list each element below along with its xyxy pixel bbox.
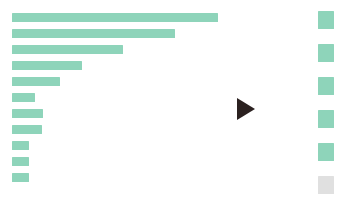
bar-fill [12, 45, 123, 54]
bar-fill [12, 13, 218, 22]
bar-row[interactable] [12, 61, 82, 70]
legend-swatch[interactable] [318, 11, 334, 29]
bar-row[interactable] [12, 125, 42, 134]
play-triangle-glyph [236, 97, 256, 121]
bar-row[interactable] [12, 157, 29, 166]
bar-chart [0, 0, 232, 201]
bar-fill [12, 77, 60, 86]
bar-fill [12, 109, 43, 118]
bar-fill [12, 93, 35, 102]
bar-row[interactable] [12, 141, 29, 150]
legend-swatch[interactable] [318, 143, 334, 161]
legend-swatch[interactable] [318, 44, 334, 62]
bar-row[interactable] [12, 77, 60, 86]
bar-fill [12, 29, 175, 38]
bar-row[interactable] [12, 29, 175, 38]
bar-fill [12, 157, 29, 166]
bar-row[interactable] [12, 45, 123, 54]
bar-row[interactable] [12, 13, 218, 22]
legend-swatch[interactable] [318, 176, 334, 194]
bar-row[interactable] [12, 93, 35, 102]
screen-root [0, 0, 339, 201]
bar-fill [12, 141, 29, 150]
bar-fill [12, 61, 82, 70]
play-triangle-icon[interactable] [236, 97, 256, 121]
legend-swatch[interactable] [318, 110, 334, 128]
legend-swatch-column [318, 0, 339, 201]
bar-fill [12, 173, 29, 182]
bar-row[interactable] [12, 109, 43, 118]
bar-row[interactable] [12, 173, 29, 182]
bar-fill [12, 125, 42, 134]
legend-swatch[interactable] [318, 77, 334, 95]
